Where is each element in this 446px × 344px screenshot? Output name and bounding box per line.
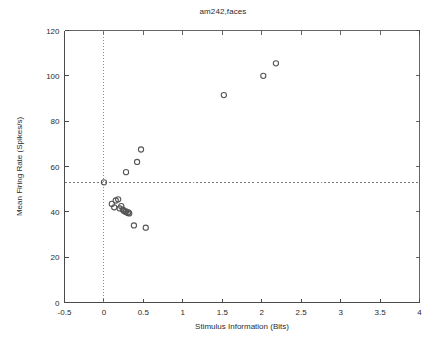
data-points-group: [101, 61, 278, 231]
x-tick-label: 3: [338, 308, 343, 317]
y-tick-label: 100: [46, 72, 60, 81]
data-point: [123, 170, 128, 175]
y-tick-label: 60: [51, 163, 60, 172]
x-tick-label: -0.5: [58, 308, 72, 317]
y-axis-title: Mean Firing Rate (Spikes/s): [15, 117, 24, 216]
x-axis-title: Stimulus Information (Bits): [195, 322, 289, 331]
x-tick-label: 2.5: [296, 308, 308, 317]
data-point: [134, 159, 139, 164]
x-tick-label: 0: [102, 308, 107, 317]
x-tick-label: 0.5: [138, 308, 150, 317]
x-tick-label: 2: [259, 308, 264, 317]
data-point: [221, 93, 226, 98]
data-point: [261, 73, 266, 78]
data-point: [273, 61, 278, 66]
x-tick-label: 1: [181, 308, 186, 317]
plot-canvas: -0.500.511.522.533.54020406080100120Stim…: [0, 0, 446, 344]
y-tick-label: 0: [55, 299, 60, 308]
axis-frame-closure: [65, 31, 420, 303]
axis-frame: [65, 31, 420, 303]
scatter-plot-figure: am242,faces -0.500.511.522.533.540204060…: [0, 0, 446, 344]
data-point: [143, 225, 148, 230]
y-tick-label: 120: [46, 27, 60, 36]
x-tick-label: 1.5: [217, 308, 229, 317]
y-tick-label: 80: [51, 117, 60, 126]
data-point: [138, 147, 143, 152]
x-tick-label: 3.5: [374, 308, 386, 317]
x-tick-label: 4: [417, 308, 422, 317]
y-tick-label: 20: [51, 253, 60, 262]
data-point: [131, 223, 136, 228]
y-tick-label: 40: [51, 208, 60, 217]
